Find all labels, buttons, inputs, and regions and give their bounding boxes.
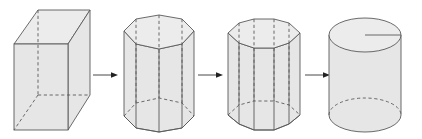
cylinder [329, 18, 401, 132]
box-front-face [14, 44, 68, 130]
octagonal-prism [124, 15, 194, 132]
arrow-3-icon [305, 72, 330, 77]
prism-to-cylinder-diagram [0, 0, 422, 139]
rectangular-prism [14, 10, 90, 130]
arrow-1-icon [93, 72, 118, 77]
arrow-2-icon [198, 72, 223, 77]
decagonal-prism [228, 19, 300, 130]
